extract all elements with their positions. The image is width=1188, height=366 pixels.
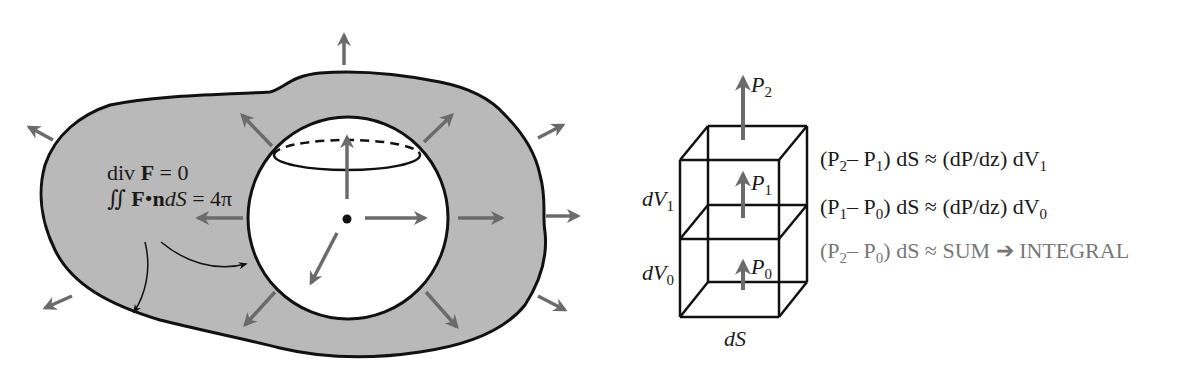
divergence-label: div F = 0 — [107, 162, 189, 184]
subscript: 1 — [1040, 158, 1048, 174]
dv-symbol: dV — [642, 186, 666, 211]
p1-label: P1 — [751, 172, 772, 198]
p-symbol: P — [751, 170, 764, 195]
eq-part: ) dS ≈ SUM ➔ INTEGRAL — [883, 238, 1129, 263]
div-text: div — [107, 160, 141, 185]
subscript: 0 — [1040, 206, 1048, 222]
subscript: 0 — [764, 266, 772, 282]
eq-part: (P — [820, 194, 840, 219]
ds-label: dS — [724, 328, 746, 350]
equation-2: (P1– P0) dS ≈ (dP/dz) dV0 — [820, 196, 1047, 222]
dv0-label: dV0 — [642, 262, 674, 288]
field-F: F — [141, 160, 154, 185]
divergence-figure: div F = 0 ∬ F•ndS = 4π P2 P1 P0 dV1 dV0 … — [0, 0, 1188, 366]
source-point — [343, 215, 352, 224]
eq-part: – P — [847, 146, 876, 171]
eq-part: – P — [847, 238, 876, 263]
equals-4pi: = 4π — [187, 186, 233, 211]
equation-1: (P2– P1) dS ≈ (dP/dz) dV1 — [820, 148, 1047, 174]
p0-label: P0 — [751, 256, 772, 282]
subscript: 2 — [764, 84, 772, 100]
eq-part: ) dS ≈ (dP/dz) dV — [883, 194, 1039, 219]
equals-zero: = 0 — [154, 160, 188, 185]
eq-part: (P — [820, 146, 840, 171]
subscript: 0 — [666, 272, 674, 288]
equation-3: (P2– P0) dS ≈ SUM ➔ INTEGRAL — [820, 240, 1129, 266]
eq-part: ) dS ≈ (dP/dz) dV — [883, 146, 1039, 171]
subscript: 1 — [666, 198, 674, 214]
eq-part: – P — [847, 194, 876, 219]
normal-n: n — [152, 186, 164, 211]
p-symbol: P — [751, 254, 764, 279]
flux-integral-label: ∬ F•ndS = 4π — [107, 188, 232, 210]
field-F: F — [131, 186, 144, 211]
subscript: 1 — [840, 206, 848, 222]
eq-part: (P — [820, 238, 840, 263]
p2-label: P2 — [751, 74, 772, 100]
double-integral-icon: ∬ — [107, 186, 126, 211]
subscript: 2 — [840, 158, 848, 174]
subscript: 1 — [764, 182, 772, 198]
subscript: 2 — [840, 250, 848, 266]
dv-symbol: dV — [642, 260, 666, 285]
p-symbol: P — [751, 72, 764, 97]
dS: dS — [165, 186, 187, 211]
dv1-label: dV1 — [642, 188, 674, 214]
